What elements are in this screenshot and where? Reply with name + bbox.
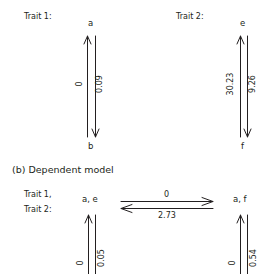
dependent-right-rate-up: 0 xyxy=(229,260,237,265)
dependent-model-title: (b) Dependent model xyxy=(12,165,114,175)
dependent-state-ae: a, e xyxy=(82,195,98,204)
trait1-state-b: b xyxy=(88,142,93,151)
trait1-state-a: a xyxy=(88,19,93,28)
dependent-left-arrow-up xyxy=(85,215,92,274)
dependent-right-rate-down: 0.54 xyxy=(250,249,258,267)
dependent-left-rate-up: 0 xyxy=(77,260,85,265)
trait1-arrow-up xyxy=(84,36,91,137)
dependent-trait-label-1: Trait 1, xyxy=(24,191,51,199)
dependent-trait-label-2: Trait 2: xyxy=(24,206,52,214)
trait2-arrow-up xyxy=(237,36,244,137)
dependent-rate-backward: 2.73 xyxy=(158,212,176,220)
trait2-state-e: e xyxy=(240,19,245,28)
trait2-label: Trait 2: xyxy=(176,13,204,21)
trait2-state-f: f xyxy=(241,142,244,151)
trait1-rate-up: 0 xyxy=(76,81,84,86)
arrows-layer xyxy=(0,0,269,274)
trait1-rate-down: 0.09 xyxy=(96,75,104,93)
dependent-right-arrow-up xyxy=(237,215,244,274)
dependent-state-af: a, f xyxy=(233,195,247,204)
dependent-left-rate-down: 0.05 xyxy=(98,249,106,267)
trait1-label: Trait 1: xyxy=(24,13,52,21)
dependent-rate-forward: 0 xyxy=(164,191,169,199)
trait2-rate-down: 9.26 xyxy=(249,75,257,93)
trait2-rate-up: 30.23 xyxy=(227,73,235,96)
